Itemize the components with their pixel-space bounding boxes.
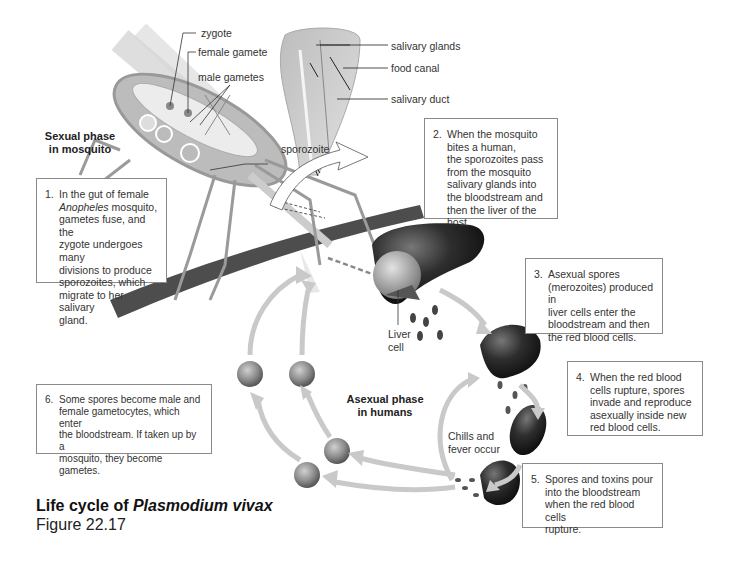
label-zygote: zygote — [201, 27, 232, 39]
label-food-canal: food canal — [391, 62, 439, 74]
sexual-phase-label: Sexual phase in mosquito — [40, 130, 120, 156]
step-3-box: 3. Asexual spores (merozoites) produced … — [525, 258, 663, 334]
label-sporozoite: sporozoite — [281, 143, 329, 155]
label-male-gametes: male gametes — [198, 71, 264, 83]
figure-number: Figure 22.17 — [36, 516, 126, 534]
step-1-box: 1. In the gut of female Anopheles mosqui… — [36, 178, 167, 283]
step-5-box: 5. Spores and toxins pour into the blood… — [522, 463, 663, 528]
liver — [372, 223, 484, 341]
label-liver-cell: Liver cell — [388, 328, 411, 354]
step-2-box: 2. When the mosquito bites a human, the … — [424, 118, 558, 219]
label-female-gamete: female gamete — [198, 46, 267, 58]
step-4-box: 4. When the red blood cells rupture, spo… — [567, 361, 703, 436]
species-name: Plasmodium vivax — [133, 497, 273, 514]
step-6-box: 6. Some spores become male and female ga… — [36, 384, 212, 454]
label-salivary-duct: salivary duct — [391, 93, 449, 105]
species-anopheles: Anopheles — [59, 201, 109, 213]
label-chills-fever: Chills and fever occur — [448, 430, 500, 456]
asexual-phase-label: Asexual phase in humans — [345, 393, 425, 419]
figure-title: Life cycle of Plasmodium vivax — [36, 497, 273, 515]
label-salivary-glands: salivary glands — [391, 40, 460, 52]
